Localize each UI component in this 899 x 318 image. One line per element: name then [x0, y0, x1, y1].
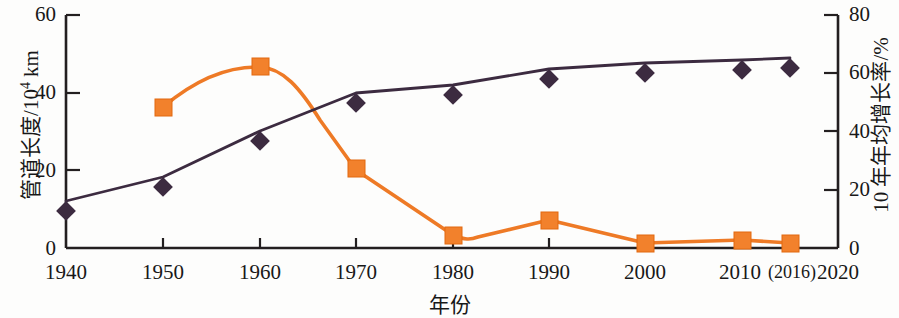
pipeline-length-point-1940	[56, 201, 76, 221]
growth-rate-line	[163, 67, 790, 243]
pipeline-length-point-1980	[443, 85, 463, 105]
chart-figure: 管道长度/104 km 10 年年均增长率/% 年份 60 40 20 0 80…	[0, 0, 899, 318]
growth-rate-point-1970	[348, 160, 365, 177]
plot-area	[0, 0, 899, 318]
growth-rate-markers	[155, 58, 799, 252]
series-growth-rate	[155, 58, 799, 252]
pipeline-length-point-2010	[732, 60, 752, 80]
pipeline-length-line	[66, 58, 790, 201]
pipeline-length-point-2000	[635, 63, 655, 83]
growth-rate-point-2010	[734, 232, 751, 249]
pipeline-length-point-1990	[539, 69, 559, 89]
growth-rate-point-2000	[637, 235, 654, 252]
y-axis-right-ticks	[824, 15, 838, 190]
growth-rate-point-1980	[445, 227, 462, 244]
y-axis-left-ticks	[66, 15, 80, 170]
growth-rate-point-2016	[782, 235, 799, 252]
growth-rate-point-1950	[155, 99, 172, 116]
growth-rate-point-1960	[252, 58, 269, 75]
series-pipeline-length	[56, 58, 800, 221]
pipeline-length-point-2016	[780, 58, 800, 78]
axis-lines	[66, 15, 838, 248]
growth-rate-point-1990	[541, 212, 558, 229]
pipeline-length-markers	[56, 58, 800, 221]
